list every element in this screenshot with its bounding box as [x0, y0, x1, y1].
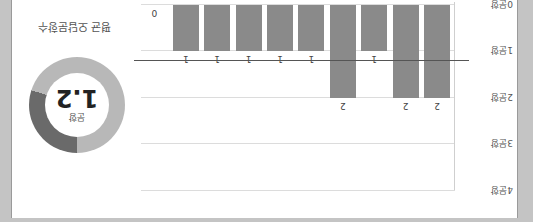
bar[interactable]	[393, 5, 419, 98]
gridline	[141, 190, 455, 191]
donut-value: 1.2	[45, 85, 109, 111]
bar[interactable]	[330, 5, 356, 98]
bar[interactable]	[236, 5, 262, 52]
bar[interactable]	[298, 5, 324, 52]
bar[interactable]	[204, 5, 230, 52]
donut-unit-label: 문항	[45, 111, 109, 124]
y-tick-label: 0문항	[473, 0, 513, 11]
bar-value-label: 0	[144, 8, 164, 18]
y-tick-label: 1문항	[473, 45, 513, 58]
average-donut-chart: 문항 1.2	[29, 57, 125, 153]
y-tick-label: 3문항	[473, 138, 513, 151]
bar-value-label: 2	[333, 101, 353, 111]
y-tick-label: 2문항	[473, 91, 513, 104]
y-axis	[454, 2, 455, 190]
rotated-stage: 0문항1문항2문항3문항4문항2212111110 문항 1.2 평균 오답문항…	[0, 0, 533, 222]
donut-center: 문항 1.2	[45, 73, 109, 137]
y-tick-label: 4문항	[473, 184, 513, 197]
average-line	[134, 60, 469, 61]
bar[interactable]	[173, 5, 199, 52]
bar[interactable]	[424, 5, 450, 98]
bar-value-label: 2	[396, 101, 416, 111]
summary-title: 평균 오답문항수	[12, 20, 137, 36]
bar-value-label: 2	[427, 101, 447, 111]
bar[interactable]	[267, 5, 293, 52]
gridline	[141, 144, 455, 145]
wrong-answer-card: 0문항1문항2문항3문항4문항2212111110 문항 1.2 평균 오답문항…	[11, 0, 518, 218]
average-summary: 문항 1.2 평균 오답문항수	[12, 0, 137, 218]
bar-chart: 0문항1문항2문항3문항4문항2212111110	[137, 0, 517, 218]
bar[interactable]	[361, 5, 387, 52]
